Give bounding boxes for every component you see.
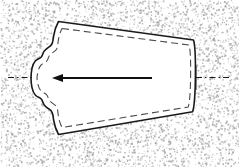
technical-drawing-figure <box>0 0 239 167</box>
figure-canvas <box>0 0 239 167</box>
